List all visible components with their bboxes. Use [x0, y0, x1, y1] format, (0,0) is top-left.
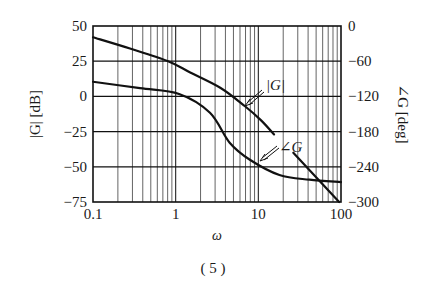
bode-plot: 50250−25−50−75 0−60−120−180−240−300 0.11… — [0, 0, 426, 298]
right-tick-label: −300 — [348, 194, 379, 210]
right-axis-label: ∠G [deg] — [395, 85, 411, 144]
plot-frame — [93, 26, 341, 202]
x-axis-ticks: 0.1110100 — [84, 206, 353, 222]
left-tick-label: −25 — [64, 124, 87, 140]
svg-text:∠G: ∠G — [279, 139, 303, 155]
x-tick-label: 0.1 — [84, 206, 103, 222]
left-tick-label: 50 — [72, 18, 87, 34]
left-tick-label: 25 — [72, 53, 87, 69]
right-tick-label: −180 — [348, 124, 379, 140]
horizontal-gridlines — [93, 61, 341, 167]
vertical-gridlines — [118, 26, 337, 202]
phase-annotation: ∠G — [260, 139, 303, 161]
right-tick-label: −120 — [348, 88, 379, 104]
right-tick-label: −60 — [348, 53, 371, 69]
x-tick-label: 1 — [172, 206, 180, 222]
x-tick-label: 100 — [330, 206, 353, 222]
left-axis-label: |G| [dB] — [27, 90, 43, 138]
left-tick-label: −50 — [64, 159, 87, 175]
figure-caption: ( 5 ) — [0, 260, 426, 277]
right-tick-label: 0 — [348, 18, 356, 34]
right-axis-ticks: 0−60−120−180−240−300 — [348, 18, 379, 210]
curves — [93, 37, 341, 202]
svg-text:|G|: |G| — [266, 77, 285, 93]
x-axis-label: ω — [212, 228, 222, 243]
x-tick-label: 10 — [251, 206, 266, 222]
left-tick-label: 0 — [80, 88, 88, 104]
magnitude-annotation: |G| — [245, 77, 285, 106]
left-axis-ticks: 50250−25−50−75 — [64, 18, 87, 210]
right-tick-label: −240 — [348, 159, 379, 175]
